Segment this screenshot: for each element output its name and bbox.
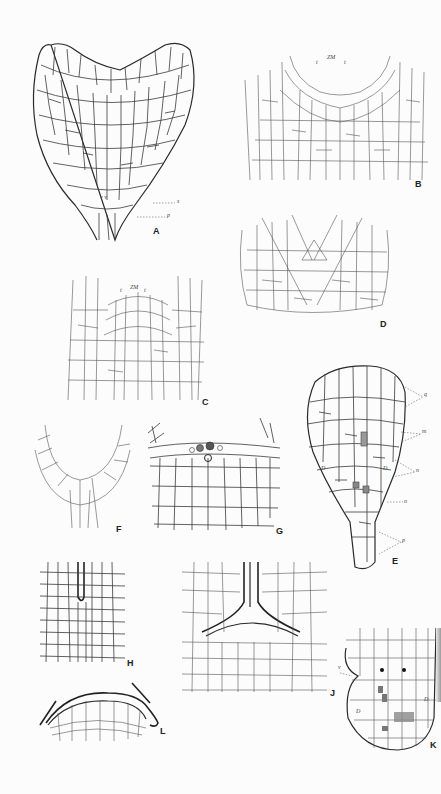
panel-j-drawing xyxy=(182,562,327,692)
panel-h-drawing xyxy=(40,562,125,662)
panel-f-letter: F xyxy=(116,524,122,534)
panel-d-drawing xyxy=(232,210,402,320)
panel-l: L xyxy=(38,683,168,743)
panel-a-label-vv: v v xyxy=(100,194,107,200)
panel-b-letter: B xyxy=(415,179,422,189)
panel-e-drawing xyxy=(295,362,441,587)
panel-e-letter: E xyxy=(392,556,398,566)
panel-f-drawing xyxy=(30,420,135,530)
panel-l-letter: L xyxy=(160,726,166,736)
panel-k-label-d1: D xyxy=(356,708,360,714)
panel-k-drawing xyxy=(338,628,438,753)
panel-k-label-d2: D xyxy=(424,696,428,702)
panel-g: G xyxy=(140,418,290,536)
panel-e-label-q: q xyxy=(424,391,427,397)
page-edge-shadow xyxy=(436,628,441,702)
panel-e-label-m: m xyxy=(422,428,426,434)
panel-e: q m n o p D D E xyxy=(295,362,441,587)
panel-h-letter: H xyxy=(127,658,134,668)
panel-e-label-o: o xyxy=(404,498,407,504)
panel-f: F xyxy=(30,420,135,535)
panel-k-letter: K xyxy=(430,740,437,750)
panel-b-label-t1: t xyxy=(316,59,318,65)
panel-j: J xyxy=(182,562,342,700)
panel-a-label-p: p xyxy=(167,212,170,218)
panel-e-label-n: n xyxy=(416,467,419,473)
panel-j-letter: J xyxy=(330,688,335,698)
panel-c: t ZM t C xyxy=(68,270,208,405)
panel-h: H xyxy=(40,562,140,670)
panel-a-label-s: s xyxy=(177,198,179,204)
panel-k-label-v: v xyxy=(338,664,341,670)
panel-e-label-d1: D xyxy=(321,465,325,471)
panel-d-letter: D xyxy=(380,319,387,329)
panel-l-drawing xyxy=(38,683,168,743)
panel-e-label-d2: D xyxy=(383,465,387,471)
panel-k: v D D K xyxy=(338,628,441,758)
panel-b: t ZM t B xyxy=(240,50,435,190)
panel-c-letter: C xyxy=(202,397,209,407)
panel-g-letter: G xyxy=(276,526,283,536)
panel-b-drawing xyxy=(240,50,435,180)
panel-b-label-t2: t xyxy=(344,59,346,65)
panel-e-label-p: p xyxy=(402,537,405,543)
panel-d: D xyxy=(232,210,432,330)
panel-c-label-zm: ZM xyxy=(130,284,138,290)
panel-a: v v s p A xyxy=(25,35,215,245)
panel-g-drawing xyxy=(140,418,290,536)
panel-c-label-t1: t xyxy=(120,287,122,293)
panel-c-label-t2: t xyxy=(144,287,146,293)
panel-a-drawing xyxy=(25,35,215,245)
panel-b-label-zm: ZM xyxy=(327,54,335,60)
panel-a-letter: A xyxy=(153,226,160,236)
